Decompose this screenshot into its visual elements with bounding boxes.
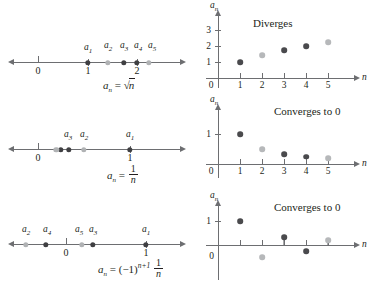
plot-xtick-label-1: 1: [238, 80, 243, 90]
number-line-point-label-a3: a3: [120, 40, 128, 53]
plot-xtick-label-2: 2: [260, 80, 265, 90]
number-line-point-a3: [66, 147, 71, 152]
plot-xtick-label-1: 1: [238, 166, 243, 176]
plot-x-axis: [206, 164, 354, 165]
plot-y-axis: [218, 110, 219, 178]
number-line-point-label-a1: a1: [84, 42, 92, 55]
number-line-point-label-a1: a1: [142, 224, 150, 237]
plot-xtick-label-5: 5: [326, 80, 331, 90]
plot-ytick-label-1: 1: [206, 216, 211, 226]
plot-point-5: [325, 155, 331, 161]
plot-ytick-label-3: 3: [206, 25, 211, 35]
formula-alternating: an = (−1)n+1 1n: [98, 258, 164, 279]
plot-point-5: [325, 237, 331, 243]
number-line-point-label-a2: a2: [104, 40, 112, 53]
number-line-arrow-right-icon: [180, 59, 186, 65]
scatter-plot-alternating: an n Converges to 0 1 0: [196, 192, 386, 287]
plot-ytick-label-1: 1: [206, 57, 211, 67]
plot-x-axis-label: n: [362, 72, 367, 82]
number-line-tick-label-0: 0: [64, 247, 69, 258]
plot-xtick-2: [262, 159, 263, 165]
plot-xtick-1: [240, 240, 241, 246]
plot-point-2: [259, 254, 265, 260]
plot-xtick-2: [262, 73, 263, 79]
number-line-point-a2: [81, 147, 86, 152]
plot-point-2: [259, 146, 265, 152]
plot-xtick-label-5: 5: [326, 166, 331, 176]
plot-point-3: [281, 151, 287, 157]
plot-x-axis-arrow-icon: [354, 161, 360, 167]
number-line-tick-label-1: 1: [86, 65, 91, 76]
number-line-tick-0: [38, 56, 39, 63]
plot-xtick-4: [306, 73, 307, 79]
number-line-tick-label-0: 0: [36, 65, 41, 76]
number-line-point-a5: [146, 60, 151, 65]
plot-point-1: [237, 131, 243, 137]
plot-ytick-1: [215, 221, 221, 222]
number-line-tick-0: [66, 238, 67, 245]
plot-point-4: [303, 43, 309, 49]
number-line-point-label-a4: a4: [43, 224, 51, 237]
number-line-sqrt-n: 0 1 2 a1 a2 a3 a4 a5 an = √n: [0, 0, 196, 95]
number-line-point-a5: [54, 147, 59, 152]
plot-xtick-label-4: 4: [304, 80, 309, 90]
plot-caption-converges: Converges to 0: [274, 105, 340, 117]
plot-point-3: [281, 48, 287, 54]
plot-point-3: [281, 234, 287, 240]
row-one-over-n: 0 1 a1 a2 a3 an = 1n an n Converge: [0, 96, 386, 191]
number-line-point-label-a5: a5: [75, 224, 83, 237]
number-line-point-label-a5: a5: [148, 40, 156, 53]
number-line-point-a5: [79, 242, 84, 247]
plot-xtick-label-3: 3: [282, 166, 287, 176]
plot-ytick-label-1: 1: [206, 129, 211, 139]
number-line-tick-0: [38, 143, 39, 150]
plot-point-2: [259, 53, 265, 59]
number-line-point-a4: [43, 242, 48, 247]
number-line-point-a2: [105, 60, 110, 65]
number-line-point-label-a1: a1: [126, 129, 134, 142]
plot-point-4: [303, 154, 309, 160]
number-line-point-label-a2: a2: [22, 224, 30, 237]
plot-xtick-4: [306, 240, 307, 246]
plot-xtick-4: [306, 159, 307, 165]
plot-x-axis-label: n: [362, 158, 367, 168]
plot-caption-diverges: Diverges: [253, 17, 293, 29]
plot-x-axis: [206, 78, 354, 79]
number-line-point-a3: [90, 242, 95, 247]
plot-xtick-3: [284, 159, 285, 165]
number-line-tick-label-1: 1: [128, 152, 133, 163]
plot-ytick-1: [215, 134, 221, 135]
plot-xtick-label-0: 0: [209, 166, 214, 176]
number-line-tick-label-2: 2: [135, 65, 140, 76]
plot-y-axis-label: an: [210, 0, 218, 13]
number-line-arrow-left-icon: [8, 241, 14, 247]
plot-y-axis: [218, 206, 219, 280]
scatter-plot-one-over-n: an n Converges to 0 1 0 1 2 3 4 5: [196, 96, 386, 191]
number-line-tick-label-0: 0: [36, 152, 41, 163]
number-line-arrow-right-icon: [180, 146, 186, 152]
number-line-arrow-left-icon: [8, 146, 14, 152]
plot-ytick-3: [215, 30, 221, 31]
plot-ytick-1: [215, 62, 221, 63]
row-sqrt-n: 0 1 2 a1 a2 a3 a4 a5 an = √n: [0, 0, 386, 95]
plot-xtick-2: [262, 240, 263, 246]
plot-point-4: [303, 248, 309, 254]
plot-xtick-1: [240, 159, 241, 165]
number-line-alternating: 0 1 a1 a2 a3 a4 a5 an = (−1)n+1 1n: [0, 192, 196, 287]
scatter-plot-sqrt-n: an n Diverges 1 2 3 0 1 2 3 4 5: [196, 0, 386, 95]
plot-xtick-label-0: 0: [209, 80, 214, 90]
number-line-axis: [14, 244, 180, 245]
number-line-point-a4: [58, 147, 63, 152]
formula-sqrt-n: an = √n: [103, 78, 135, 94]
number-line-point-label-a4: a4: [134, 40, 142, 53]
formula-one-over-n: an = 1n: [107, 164, 139, 185]
plot-ytick-2: [215, 46, 221, 47]
plot-point-1: [237, 218, 243, 224]
number-line-point-label-a2: a2: [80, 129, 88, 142]
plot-caption-converges: Converges to 0: [274, 201, 340, 213]
plot-x-axis-label: n: [362, 239, 367, 249]
plot-x-axis-arrow-icon: [354, 242, 360, 248]
plot-xtick-label-4: 4: [304, 166, 309, 176]
number-line-point-label-a3: a3: [64, 129, 72, 142]
plot-x-axis: [206, 245, 354, 246]
